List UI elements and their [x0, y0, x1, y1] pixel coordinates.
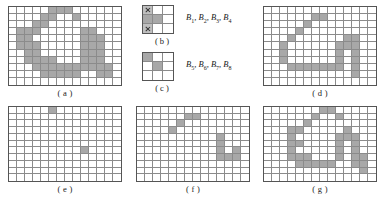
grid-cell — [89, 42, 97, 49]
grid-cell — [264, 154, 272, 161]
grid-cell — [296, 174, 304, 181]
grid-cell — [17, 7, 25, 14]
grid-cell — [296, 42, 304, 49]
se-cell — [143, 53, 153, 62]
grid-cell — [209, 120, 217, 127]
grid-cell — [33, 14, 41, 21]
grid-cell — [360, 14, 368, 21]
grid-cell — [217, 120, 225, 127]
panel-e-caption: ( e ) — [8, 184, 122, 194]
grid-cell — [25, 64, 33, 71]
grid-cell — [81, 50, 89, 57]
grid-cell — [225, 174, 233, 181]
grid-cell — [360, 7, 368, 14]
grid-cell — [320, 147, 328, 154]
grid-cell — [296, 57, 304, 64]
grid-cell — [328, 57, 336, 64]
grid-cell — [17, 147, 25, 154]
grid-cell — [65, 57, 73, 64]
se-cell — [153, 6, 163, 15]
grid-cell — [65, 114, 73, 121]
grid-cell — [264, 71, 272, 78]
grid-cell — [233, 107, 241, 114]
grid-cell — [264, 161, 272, 168]
grid-cell — [161, 127, 169, 134]
grid-cell — [33, 120, 41, 127]
grid-cell — [320, 57, 328, 64]
grid-cell — [145, 154, 153, 161]
se-cell — [143, 62, 153, 71]
grid-cell — [57, 114, 65, 121]
grid-cell — [57, 161, 65, 168]
grid-cell — [344, 168, 352, 175]
grid-cell — [49, 141, 57, 148]
grid-cell — [73, 134, 81, 141]
grid-cell — [185, 141, 193, 148]
grid-cell — [161, 154, 169, 161]
grid-cell — [352, 161, 360, 168]
grid-cell — [17, 78, 25, 85]
grid-cell — [225, 161, 233, 168]
grid-cell — [368, 14, 376, 21]
grid-cell — [73, 7, 81, 14]
grid-cell — [344, 28, 352, 35]
grid-cell — [9, 107, 17, 114]
grid-cell — [312, 168, 320, 175]
grid-cell — [328, 14, 336, 21]
grid-cell — [304, 78, 312, 85]
grid-cell — [304, 174, 312, 181]
grid-cell — [97, 7, 105, 14]
grid-cell — [304, 141, 312, 148]
grid-cell — [209, 161, 217, 168]
grid-cell — [312, 120, 320, 127]
grid-cell — [17, 21, 25, 28]
grid-cell — [336, 21, 344, 28]
grid-cell — [368, 161, 376, 168]
grid-cell — [33, 78, 41, 85]
grid-cell — [105, 141, 113, 148]
grid-cell — [312, 107, 320, 114]
grid-cell — [97, 127, 105, 134]
grid-cell — [296, 35, 304, 42]
grid-cell — [264, 107, 272, 114]
grid-cell — [105, 134, 113, 141]
grid-cell — [288, 7, 296, 14]
grid-cell — [264, 64, 272, 71]
grid-cell — [360, 50, 368, 57]
se-cell — [163, 15, 173, 24]
grid-cell — [352, 21, 360, 28]
grid-cell — [17, 107, 25, 114]
grid-cell — [201, 120, 209, 127]
grid-cell — [233, 147, 241, 154]
panel-a-caption: ( a ) — [8, 88, 122, 98]
grid-cell — [193, 114, 201, 121]
grid-cell — [113, 120, 121, 127]
grid-cell — [97, 107, 105, 114]
grid-cell — [360, 154, 368, 161]
grid-cell — [304, 161, 312, 168]
grid-cell — [153, 134, 161, 141]
grid-cell — [336, 42, 344, 49]
grid-cell — [193, 161, 201, 168]
grid-cell — [336, 64, 344, 71]
grid-cell — [81, 78, 89, 85]
grid-cell — [336, 127, 344, 134]
grid-cell — [89, 114, 97, 121]
grid-cell — [264, 120, 272, 127]
se-cell — [143, 71, 153, 80]
grid-cell — [153, 174, 161, 181]
grid-cell — [49, 71, 57, 78]
grid-cell — [97, 14, 105, 21]
grid-cell — [9, 141, 17, 148]
se-cell — [163, 71, 173, 80]
grid-cell — [81, 28, 89, 35]
grid-cell — [113, 114, 121, 121]
grid-cell — [272, 141, 280, 148]
grid-cell — [153, 147, 161, 154]
grid-cell — [264, 114, 272, 121]
grid-cell — [360, 168, 368, 175]
grid-cell — [57, 28, 65, 35]
grid-cell — [41, 161, 49, 168]
grid-cell — [288, 134, 296, 141]
grid-cell — [272, 14, 280, 21]
